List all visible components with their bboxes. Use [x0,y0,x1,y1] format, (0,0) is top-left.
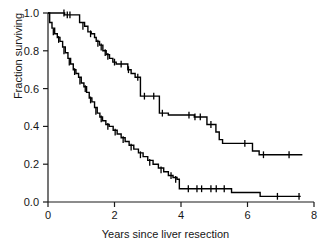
x-tick-label: 2 [111,209,117,221]
y-tick-label: 0.0 [24,196,39,208]
x-tick-label: 0 [45,209,51,221]
x-tick-label: 4 [178,209,184,221]
y-tick-label: 0.4 [24,120,39,132]
y-tick-label: 0.8 [24,45,39,57]
y-axis-title: Fraction surviving [12,0,24,126]
x-axis-title: Years since liver resection [0,228,331,240]
kaplan-meier-plot: 024680.00.20.40.60.81.0 [0,0,331,250]
survival-chart-figure: 024680.00.20.40.60.81.0 Fraction survivi… [0,0,331,250]
y-tick-label: 0.2 [24,158,39,170]
x-tick-label: 8 [311,209,317,221]
y-tick-label: 0.6 [24,83,39,95]
x-tick-label: 6 [244,209,250,221]
y-tick-label: 1.0 [24,7,39,19]
